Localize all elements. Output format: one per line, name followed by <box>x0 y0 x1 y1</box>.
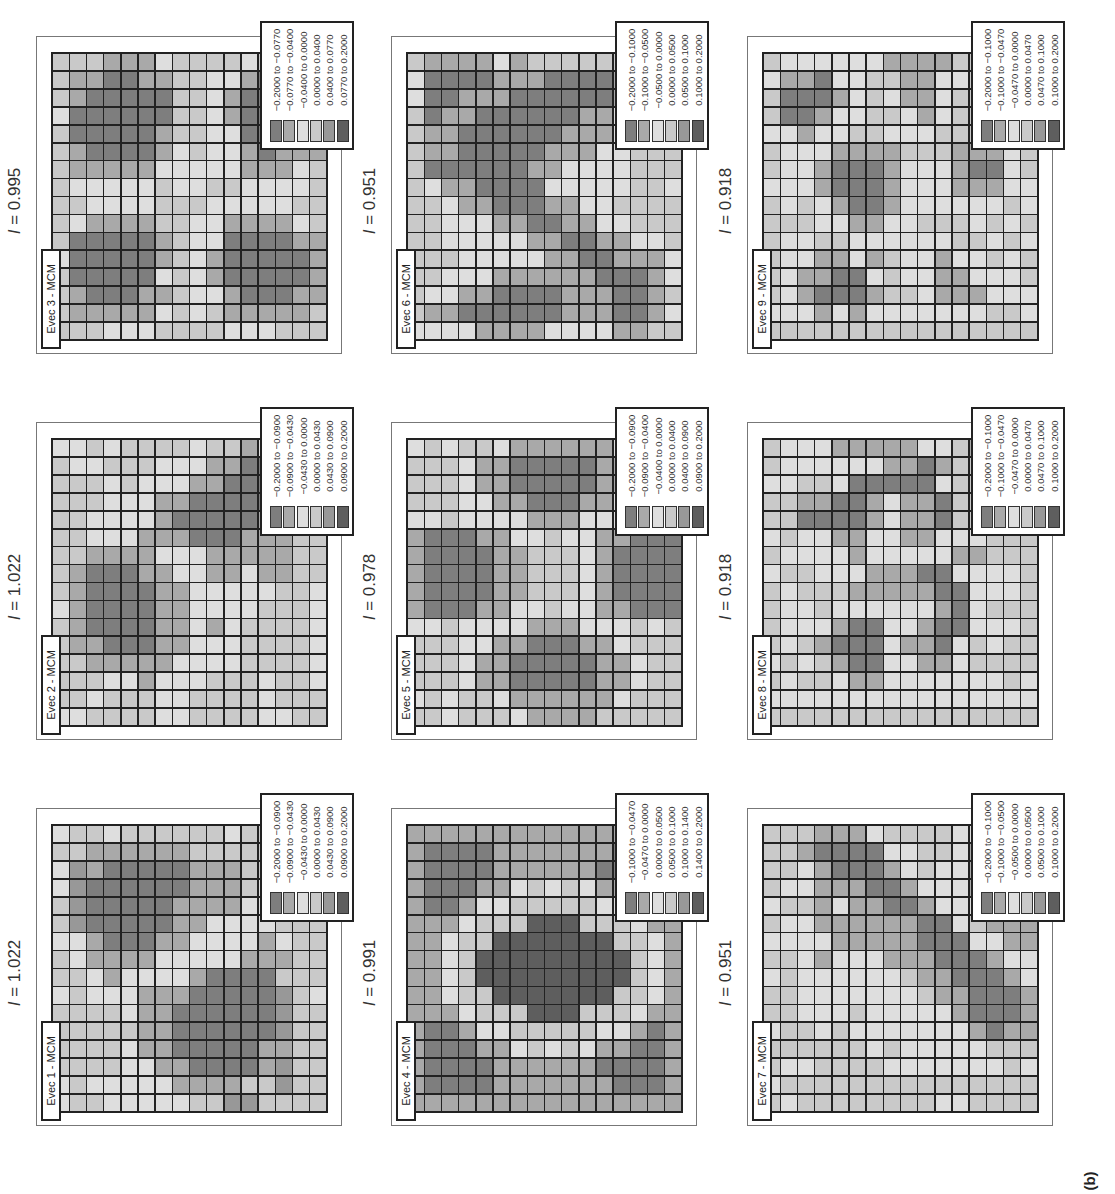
heatmap-cell <box>225 494 241 510</box>
legend-entry: −0.0400 to 0.0000 <box>652 410 664 528</box>
heatmap-cell <box>259 583 275 599</box>
legend-box: −0.2000 to −0.1000−0.1000 to −0.0500−0.0… <box>971 793 1065 922</box>
heatmap-cell <box>953 583 969 599</box>
heatmap-cell <box>614 1077 630 1093</box>
heatmap-cell <box>867 565 883 581</box>
heatmap-cell <box>970 691 986 707</box>
heatmap-cell <box>477 1041 493 1057</box>
heatmap-cell <box>104 1023 120 1039</box>
heatmap-cell <box>648 565 664 581</box>
heatmap-cell <box>293 601 309 617</box>
heatmap-cell <box>614 619 630 635</box>
heatmap-cell <box>139 547 155 563</box>
heatmap-cell <box>665 1041 681 1057</box>
heatmap-cell <box>459 1005 475 1021</box>
heatmap-cell <box>528 1059 544 1075</box>
heatmap-cell <box>477 565 493 581</box>
heatmap-cell <box>631 251 647 267</box>
heatmap-cell <box>631 197 647 213</box>
heatmap-cell <box>545 215 561 231</box>
heatmap-cell <box>936 969 952 985</box>
heatmap-cell <box>1004 619 1020 635</box>
heatmap-cell <box>936 987 952 1003</box>
heatmap-cell <box>459 1059 475 1075</box>
heatmap-cell <box>494 512 510 528</box>
heatmap-cell <box>276 179 292 195</box>
heatmap-cell <box>798 323 814 339</box>
heatmap-cell <box>833 547 849 563</box>
heatmap-cell <box>425 1041 441 1057</box>
heatmap-cell <box>1021 1005 1037 1021</box>
legend-entry: −0.0430 to 0.0000 <box>297 410 309 528</box>
heatmap-cell <box>459 494 475 510</box>
heatmap-cell <box>597 1059 613 1075</box>
heatmap-cell <box>425 547 441 563</box>
heatmap-cell <box>850 619 866 635</box>
legend-label: 0.0430 to 0.0900 <box>324 806 335 877</box>
heatmap-cell <box>781 1041 797 1057</box>
heatmap-cell <box>781 1059 797 1075</box>
heatmap-cell <box>884 215 900 231</box>
heatmap-cell <box>815 987 831 1003</box>
heatmap-cell <box>408 179 424 195</box>
heatmap-cell <box>597 880 613 896</box>
heatmap-cell <box>310 691 326 707</box>
legend-entry: −0.0900 to −0.0430 <box>283 796 295 914</box>
heatmap-cell <box>918 72 934 88</box>
heatmap-cell <box>580 1059 596 1075</box>
heatmap-cell <box>781 880 797 896</box>
heatmap-cell <box>459 862 475 878</box>
heatmap-cell <box>781 269 797 285</box>
heatmap-cell <box>953 898 969 914</box>
heatmap-cell <box>815 215 831 231</box>
heatmap-cell <box>190 161 206 177</box>
heatmap-cell <box>442 1059 458 1075</box>
heatmap-cell <box>631 619 647 635</box>
heatmap-cell <box>442 126 458 142</box>
heatmap-cell <box>173 476 189 492</box>
heatmap-cell <box>833 655 849 671</box>
legend-entry: −0.2000 to −0.1000 <box>981 796 993 914</box>
heatmap-cell <box>242 179 258 195</box>
legend-swatch <box>665 120 677 142</box>
heatmap-cell <box>648 637 664 653</box>
heatmap-cell <box>70 197 86 213</box>
heatmap-cell <box>139 709 155 725</box>
legend-entry: 0.0400 to 0.0770 <box>323 24 335 142</box>
heatmap-cell <box>1004 673 1020 689</box>
heatmap-cell <box>901 90 917 106</box>
heatmap-cell <box>459 898 475 914</box>
heatmap-cell <box>173 161 189 177</box>
heatmap-cell <box>477 1077 493 1093</box>
heatmap-cell <box>442 933 458 949</box>
heatmap-cell <box>225 269 241 285</box>
heatmap-cell <box>70 1005 86 1021</box>
heatmap-cell <box>597 637 613 653</box>
heatmap-cell <box>207 233 223 249</box>
heatmap-cell <box>918 844 934 860</box>
heatmap-cell <box>156 197 172 213</box>
heatmap-cell <box>918 673 934 689</box>
heatmap-cell <box>494 1095 510 1111</box>
heatmap-cell <box>970 583 986 599</box>
heatmap-cell <box>293 179 309 195</box>
heatmap-cell <box>408 197 424 213</box>
heatmap-cell <box>528 197 544 213</box>
heatmap-cell <box>459 72 475 88</box>
heatmap-cell <box>207 691 223 707</box>
heatmap-cell <box>122 440 138 456</box>
heatmap-cell <box>70 476 86 492</box>
heatmap-cell <box>545 655 561 671</box>
heatmap-cell <box>798 269 814 285</box>
heatmap-cell <box>764 458 780 474</box>
heatmap-cell <box>1021 233 1037 249</box>
heatmap-cell <box>815 655 831 671</box>
heatmap-cell <box>156 880 172 896</box>
heatmap-cell <box>850 1041 866 1057</box>
heatmap-cell <box>781 494 797 510</box>
heatmap-cell <box>310 197 326 213</box>
heatmap-cell <box>936 862 952 878</box>
heatmap-cell <box>408 215 424 231</box>
heatmap-cell <box>104 898 120 914</box>
heatmap-cell <box>139 530 155 546</box>
